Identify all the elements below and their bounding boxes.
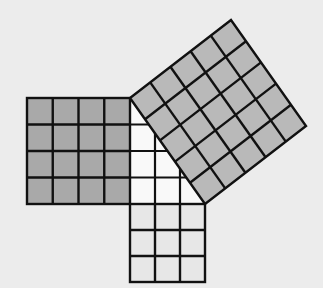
leg-3-square [130,204,205,282]
leg-4-square [27,98,130,204]
pythagorean-diagram [0,0,323,288]
